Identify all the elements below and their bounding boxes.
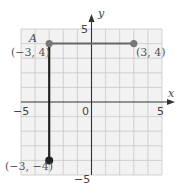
x-tick-max: 5	[157, 105, 164, 118]
x-tick-zero: 0	[82, 105, 89, 118]
coordinate-plane: y x −5 0 5 5 −5 A (−3, 4) (3, 4) (−3, −4…	[0, 0, 183, 187]
y-axis-label: y	[97, 7, 105, 20]
x-axis-label: x	[168, 87, 175, 100]
point-a-label: (−3, 4)	[11, 46, 50, 59]
point-b-label: (3, 4)	[136, 46, 166, 59]
y-tick-min: −5	[74, 173, 90, 186]
point-a-name: A	[28, 32, 37, 45]
y-axis-arrow-icon	[89, 14, 95, 22]
y-tick-max: 5	[81, 23, 88, 36]
point-c-label: (−3, −4)	[5, 160, 53, 173]
x-tick-min: −5	[13, 105, 29, 118]
